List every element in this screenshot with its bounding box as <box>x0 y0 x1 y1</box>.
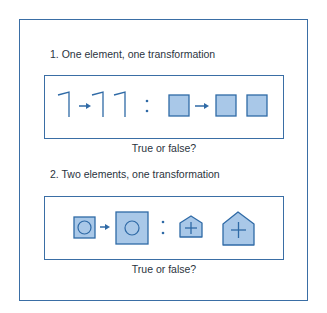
arrow-icon <box>195 103 209 109</box>
two-filled-squares-icon <box>216 95 267 116</box>
filled-square-icon <box>169 95 189 116</box>
ratio-separator-icon <box>162 221 165 235</box>
arrow-icon <box>79 103 91 109</box>
large-square-with-circle-icon <box>116 212 148 244</box>
single-hook-line-icon <box>58 92 69 117</box>
large-house-with-plus-icon <box>223 212 254 245</box>
small-square-with-circle-icon <box>74 217 95 238</box>
arrow-icon <box>100 224 110 230</box>
ratio-separator-icon <box>146 100 149 113</box>
double-hook-line-icon <box>92 92 125 117</box>
small-house-with-plus-icon <box>180 216 202 237</box>
analogy-figures <box>0 0 327 313</box>
